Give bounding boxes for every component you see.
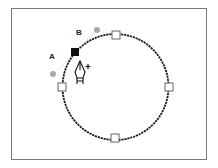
diagram-canvas <box>0 0 218 168</box>
label-b: B <box>76 29 82 37</box>
pen-add-anchor-icon <box>75 61 91 84</box>
direction-handle-b[interactable] <box>94 27 100 33</box>
anchor-point-left[interactable] <box>58 83 66 91</box>
anchor-point-selected[interactable] <box>71 48 79 56</box>
anchor-point-right[interactable] <box>165 83 173 91</box>
anchor-point-bottom[interactable] <box>111 134 119 142</box>
label-a: A <box>49 53 55 61</box>
direction-handle-a[interactable] <box>50 71 56 77</box>
anchor-point-top[interactable] <box>112 31 120 39</box>
